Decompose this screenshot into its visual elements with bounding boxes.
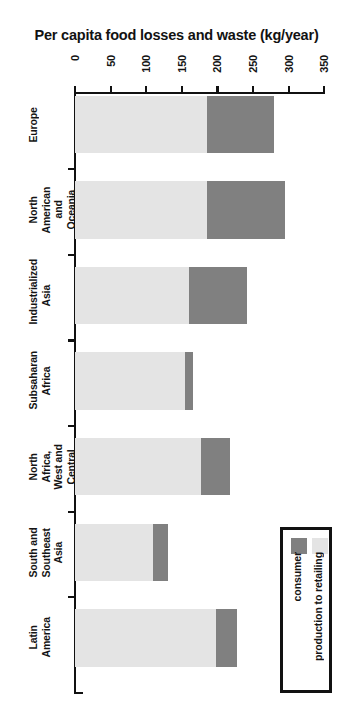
category-label-5: South andSoutheast Asia [27,524,67,582]
axis-bottom-cap [74,692,83,694]
bar-segment [75,267,189,325]
axis-tick-200 [216,86,218,94]
category-tick-6 [68,596,76,598]
axis-tick-label-300: 300 [283,55,295,73]
axis-tick-250 [252,86,254,94]
chart-title: Per capita food losses and waste (kg/yea… [0,27,353,43]
bar-segment [75,181,207,239]
bar-segment [185,352,192,410]
category-label-6: Latin America [27,609,67,667]
axis-tick-label-100: 100 [140,55,152,73]
category-tick-2 [68,254,76,256]
bar-segment [75,96,207,154]
bar-segment [207,181,285,239]
bar-segment [153,524,167,582]
chart-container: Per capita food losses and waste (kg/yea… [0,0,353,728]
axis-tick-label-350: 350 [318,55,330,73]
category-label-2: IndustrializedAsia [27,267,67,325]
bar-segment [75,352,185,410]
category-label-3: SubsaharanAfrica [27,352,67,410]
axis-tick-0 [74,86,76,94]
axis-tick-300 [288,86,290,94]
category-tick-3 [68,339,76,341]
category-tick-5 [68,511,76,513]
category-label-4: North Africa,West andCentral Asia [27,438,67,496]
axis-tick-350 [323,86,325,94]
axis-tick-50 [110,86,112,94]
bar-segment [201,438,230,496]
legend-label-0: consumer [291,552,303,601]
bar-segment [207,96,275,154]
axis-tick-100 [145,86,147,94]
axis-tick-label-0: 0 [69,55,81,61]
axis-tick-label-50: 50 [105,55,117,67]
category-tick-4 [68,425,76,427]
legend-label-1: production to retailing [312,552,324,661]
bar-segment [75,609,216,667]
axis-tick-label-150: 150 [176,55,188,73]
bar-segment [216,609,237,667]
axis-tick-150 [181,86,183,94]
bar-segment [75,524,153,582]
category-label-0: Europe [27,96,67,154]
axis-tick-label-200: 200 [211,55,223,73]
bar-segment [75,438,201,496]
bar-segment [189,267,247,325]
category-tick-1 [68,168,76,170]
chart-legend: consumerproduction to retailing [280,527,332,693]
category-label-1: North Americanand Oceania [27,181,67,239]
axis-tick-label-250: 250 [247,55,259,73]
